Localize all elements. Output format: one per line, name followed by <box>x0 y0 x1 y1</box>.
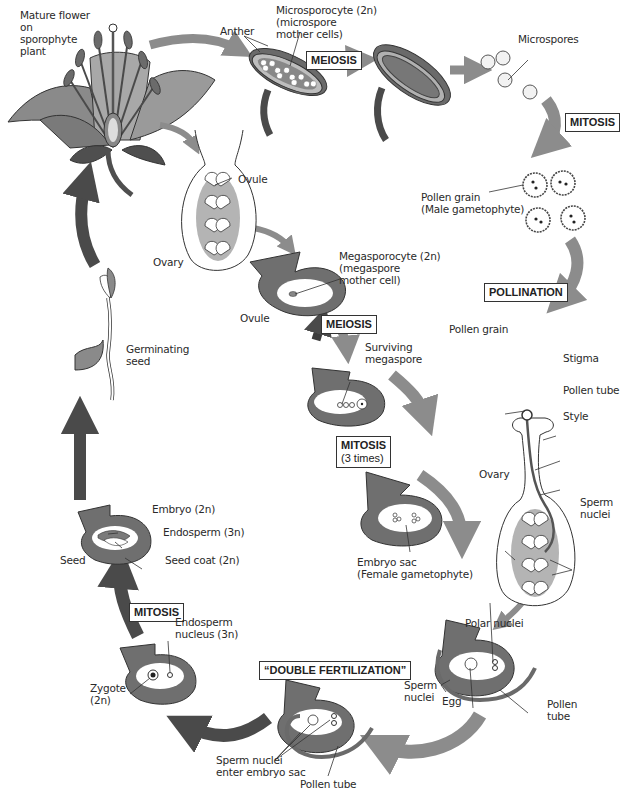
label-line: nuclei <box>404 691 437 703</box>
label-style: Style <box>563 410 588 422</box>
label-microsporocyte: Microsporocyte (2n) (microspore mother c… <box>276 4 377 40</box>
label-megasporocyte: Megasporocyte (2n) (megaspore mother cel… <box>339 250 441 286</box>
label-line: nucleus (3n) <box>175 628 238 640</box>
label-line: (megaspore <box>339 262 441 274</box>
ovule-polar-nuclei <box>435 620 535 700</box>
ovary-illustration-left <box>182 130 257 270</box>
label-endosperm-nucleus: Endosperm nucleus (3n) <box>175 616 238 640</box>
process-box-meiosis-mid: MEIOSIS <box>321 315 377 334</box>
process-box-double-fertilization: “DOUBLE FERTILIZATION” <box>259 661 411 680</box>
ovule-zygote <box>120 644 196 704</box>
label-seed-coat: Seed coat (2n) <box>165 554 239 566</box>
process-sublabel: (3 times) <box>341 452 386 465</box>
label-seed: Seed <box>60 554 85 566</box>
label-line: enter embryo sac <box>216 766 305 778</box>
label-line: (microspore <box>276 16 377 28</box>
process-box-mitosis-mid: MITOSIS (3 times) <box>336 436 391 468</box>
label-embryo-sac: Embryo sac (Female gametophyte) <box>357 556 473 580</box>
label-line: (2n) <box>90 694 126 706</box>
label-sperm-nuclei-right: Sperm nuclei <box>580 496 613 520</box>
label-line: Mature flower <box>20 9 90 21</box>
label-pollen-tube-right: Pollen tube <box>547 698 577 722</box>
label-line: Megasporocyte (2n) <box>339 250 441 262</box>
pistil-illustration-right <box>497 410 575 606</box>
angiosperm-life-cycle-diagram: Mature flower on sporophyte plant Anther… <box>0 0 622 793</box>
label-endosperm: Endosperm (3n) <box>163 526 244 538</box>
label-pollen-grain-male: Pollen grain (Male gametophyte) <box>421 191 524 215</box>
label-ovule-top: Ovule <box>238 173 268 185</box>
label-line: Sperm nuclei <box>216 754 305 766</box>
microspores-illustration <box>481 51 537 99</box>
label-sperm-nuclei-bottom: Sperm nuclei <box>404 679 437 703</box>
process-box-mitosis-top: MITOSIS <box>565 113 620 132</box>
label-line: Sperm <box>404 679 437 691</box>
label-mature-flower: Mature flower on sporophyte plant <box>20 9 90 57</box>
label-line: tube <box>547 710 577 722</box>
label-line: mother cell) <box>339 274 441 286</box>
pollen-grains-illustration <box>523 171 585 232</box>
label-stigma: Stigma <box>563 352 599 364</box>
label-surviving-megaspore: Surviving megaspore <box>365 341 422 365</box>
label-line: Zygote <box>90 682 126 694</box>
label-line: Microsporocyte (2n) <box>276 4 377 16</box>
label-line: Pollen <box>547 698 577 710</box>
label-line: Surviving <box>365 341 422 353</box>
label-zygote: Zygote (2n) <box>90 682 126 706</box>
label-polar-nuclei: Polar nuclei <box>465 617 523 629</box>
label-line: megaspore <box>365 353 422 365</box>
germinating-seed-illustration <box>75 268 115 400</box>
label-line: sporophyte <box>20 33 90 45</box>
label-line: Pollen grain <box>421 191 524 203</box>
label-line: Embryo sac <box>357 556 473 568</box>
label-sperm-nuclei-enter: Sperm nuclei enter embryo sac <box>216 754 305 778</box>
ovule-double-fertilization <box>278 680 372 757</box>
label-line: Endosperm <box>175 616 238 628</box>
label-ovary-right: Ovary <box>479 468 509 480</box>
ovule-megasporocyte <box>250 252 346 316</box>
process-box-pollination: POLLINATION <box>484 283 568 302</box>
anther-illustration <box>243 34 460 140</box>
label-line: mother cells) <box>276 28 377 40</box>
label-ovary-left: Ovary <box>153 256 183 268</box>
label-line: seed <box>126 355 189 367</box>
label-pollen-grain: Pollen grain <box>449 323 508 335</box>
label-line: nuclei <box>580 508 613 520</box>
label-line: (Female gametophyte) <box>357 568 473 580</box>
label-microspores: Microspores <box>518 33 579 45</box>
label-line: (Male gametophyte) <box>421 203 524 215</box>
label-line: Sperm <box>580 496 613 508</box>
ovule-surviving-megaspore <box>308 368 385 426</box>
label-pollen-tube-style: Pollen tube <box>563 384 619 396</box>
label-germinating-seed: Germinating seed <box>126 343 189 367</box>
label-line: on <box>20 21 90 33</box>
label-egg: Egg <box>442 695 461 707</box>
label-line: plant <box>20 45 90 57</box>
label-ovule-mid: Ovule <box>240 312 270 324</box>
process-box-meiosis-top: MEIOSIS <box>306 51 362 70</box>
label-embryo: Embryo (2n) <box>152 503 215 515</box>
label-pollen-tube-bottom: Pollen tube <box>300 778 356 790</box>
label-line: Germinating <box>126 343 189 355</box>
seed-illustration <box>78 505 151 564</box>
label-anther: Anther <box>220 25 254 37</box>
process-label: MITOSIS <box>341 439 386 451</box>
